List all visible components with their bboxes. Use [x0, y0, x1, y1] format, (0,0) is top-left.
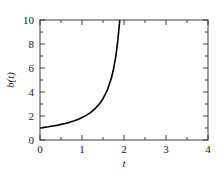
tick-label: 2 [121, 143, 127, 155]
tick-label: 6 [29, 62, 35, 74]
tick-label: 4 [205, 143, 211, 155]
tick-label: 3 [163, 143, 169, 155]
tick-label: 4 [29, 86, 35, 98]
plot-background [40, 20, 208, 140]
tick-label: 0 [37, 143, 43, 155]
figure-container: 01234 0246810 t b(t) [0, 0, 224, 175]
tick-label: 0 [29, 134, 35, 146]
x-axis-title: t [122, 157, 126, 169]
y-axis-title: b(t) [4, 72, 17, 88]
tick-label: 8 [29, 38, 35, 50]
tick-label: 10 [23, 14, 35, 26]
x-tick-labels: 01234 [37, 143, 211, 155]
exponential-growth-chart: 01234 0246810 t b(t) [0, 0, 224, 175]
tick-label: 2 [29, 110, 35, 122]
y-tick-labels: 0246810 [23, 14, 35, 146]
tick-label: 1 [79, 143, 85, 155]
